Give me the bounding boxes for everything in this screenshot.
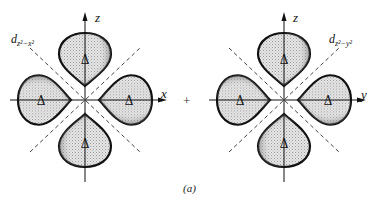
- svg-text:Δ: Δ: [81, 53, 90, 67]
- right-y-axis-label: y: [361, 88, 367, 101]
- z-axis-arrow-icon: [282, 12, 287, 21]
- orbital-subscript: z²−x²: [17, 39, 34, 48]
- svg-text:Δ: Δ: [236, 94, 245, 108]
- plus-operator: +: [183, 94, 190, 107]
- svg-text:Δ: Δ: [81, 137, 90, 151]
- left-x-axis-label: x: [161, 87, 167, 100]
- orbital-subscript: z²−y²: [335, 39, 352, 48]
- right-z-axis-label: z: [293, 11, 298, 24]
- figure-caption: (a): [183, 183, 196, 194]
- svg-text:Δ: Δ: [280, 137, 289, 151]
- svg-text:Δ: Δ: [125, 94, 134, 108]
- right-orbital-label: dz²−y²: [329, 33, 352, 48]
- left-z-axis-label: z: [95, 11, 100, 24]
- z-axis-arrow-icon: [83, 12, 88, 21]
- svg-text:Δ: Δ: [37, 94, 46, 108]
- left-orbital-label: dz²−x²: [11, 33, 34, 48]
- svg-text:Δ: Δ: [280, 53, 289, 67]
- svg-text:Δ: Δ: [324, 94, 333, 108]
